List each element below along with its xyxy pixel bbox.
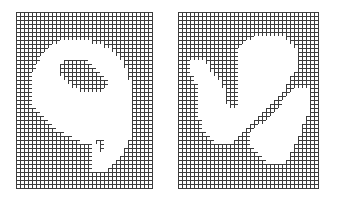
- grid-figure-left: [16, 12, 153, 189]
- blank-region: [214, 140, 234, 144]
- blank-region: [266, 160, 286, 164]
- grid-figure-right: [178, 12, 319, 189]
- blank-region: [92, 168, 108, 172]
